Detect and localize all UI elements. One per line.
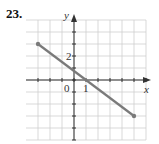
endpoint-left [36,42,40,46]
endpoint-right [132,114,136,118]
y-tick-label-2: 2 [66,50,72,62]
origin-label: 0 [64,82,70,94]
y-axis [71,14,77,140]
x-tick-label-1: 1 [83,82,89,94]
y-axis-label: y [63,9,69,21]
x-axis-label: x [143,83,149,95]
y-axis-arrow-icon [71,14,77,22]
coordinate-plane: y x 0 1 2 [0,0,159,144]
